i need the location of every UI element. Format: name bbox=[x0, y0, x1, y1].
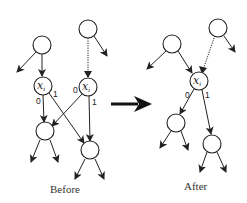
edge-label-1: 1 bbox=[53, 89, 58, 99]
edge-arrow bbox=[181, 131, 188, 150]
edge-0-arrow bbox=[43, 95, 44, 122]
node-top-left bbox=[33, 36, 51, 54]
edge-arrow bbox=[95, 159, 104, 179]
edge-arrow bbox=[160, 131, 171, 148]
right-arrow-icon bbox=[111, 96, 152, 112]
before-panel: xi xi 0 1 0 1 Before bbox=[17, 20, 107, 195]
node-low-right bbox=[203, 135, 221, 153]
before-caption: Before bbox=[50, 183, 80, 195]
node-top-right bbox=[79, 20, 97, 38]
edge-label-0: 0 bbox=[185, 90, 190, 100]
node-low-right bbox=[81, 141, 99, 159]
edge-arrow bbox=[224, 36, 235, 52]
edge-label-0: 0 bbox=[73, 85, 78, 95]
node-top-right bbox=[209, 19, 227, 37]
node-low-left bbox=[167, 114, 185, 132]
edge-arrow bbox=[178, 51, 192, 73]
edge-arrow bbox=[17, 52, 36, 72]
after-panel: xi 0 1 After bbox=[147, 19, 235, 192]
edge-arrow bbox=[217, 152, 226, 172]
dotted-edge bbox=[203, 38, 214, 70]
edge-arrow bbox=[147, 51, 166, 69]
edge-arrow bbox=[75, 159, 85, 179]
edge-arrow bbox=[31, 140, 40, 162]
edge-1-arrow bbox=[49, 93, 84, 143]
edge-arrow bbox=[50, 140, 58, 162]
node-top-left bbox=[163, 35, 181, 53]
node-low-left bbox=[36, 122, 54, 140]
edge-label-0: 0 bbox=[36, 96, 41, 106]
edge-arrow bbox=[94, 36, 107, 56]
arrowhead-icon bbox=[84, 71, 92, 78]
edge-arrow bbox=[200, 152, 207, 172]
after-caption: After bbox=[184, 180, 208, 192]
edge-label-1: 1 bbox=[92, 97, 97, 107]
edge-label-1: 1 bbox=[205, 90, 210, 100]
edge-1-arrow bbox=[89, 96, 90, 141]
decision-diagram: xi xi 0 1 0 1 Before bbox=[0, 0, 247, 203]
